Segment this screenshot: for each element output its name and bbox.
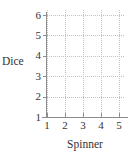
y-tick-label-slot: 1 xyxy=(24,112,41,123)
gridline-vertical xyxy=(83,10,84,117)
y-axis-tick xyxy=(43,15,47,16)
y-tick-label: 4 xyxy=(29,50,41,61)
gridline-horizontal xyxy=(47,15,124,16)
y-tick-label: 5 xyxy=(29,30,41,41)
y-tick-label: 3 xyxy=(29,71,41,82)
y-axis-tick xyxy=(43,56,47,57)
y-axis-tick xyxy=(43,97,47,98)
y-axis-tick xyxy=(43,76,47,77)
gridline-vertical xyxy=(119,10,120,117)
gridline-horizontal xyxy=(47,76,124,77)
x-axis-tick xyxy=(101,113,102,117)
x-tick-label: 1 xyxy=(40,120,54,131)
y-axis-tick xyxy=(43,35,47,36)
gridline-vertical xyxy=(101,10,102,117)
x-axis-tick xyxy=(65,113,66,117)
gridline-horizontal xyxy=(47,35,124,36)
x-axis-title: Spinner xyxy=(46,138,124,151)
x-axis-line xyxy=(42,117,128,118)
x-axis-tick xyxy=(47,113,48,117)
x-tick-label: 3 xyxy=(76,120,90,131)
gridline-vertical xyxy=(47,10,48,117)
y-tick-label: 6 xyxy=(29,10,41,21)
x-axis-tick xyxy=(119,113,120,117)
x-tick-label: 4 xyxy=(94,120,108,131)
chart-screenshot: Dice 6 5 4 3 2 1 xyxy=(0,0,134,156)
x-tick-label: 5 xyxy=(112,120,126,131)
y-tick-label-slot: 4 xyxy=(24,50,41,61)
y-tick-label: 2 xyxy=(29,91,41,102)
y-tick-label-slot: 2 xyxy=(24,91,41,102)
gridline-horizontal xyxy=(47,56,124,57)
gridline-vertical xyxy=(65,10,66,117)
plot-area xyxy=(47,15,119,117)
gridline-horizontal xyxy=(47,97,124,98)
y-tick-label-slot: 6 xyxy=(24,10,41,21)
y-tick-label-slot: 5 xyxy=(24,30,41,41)
x-tick-label: 2 xyxy=(58,120,72,131)
y-axis-line xyxy=(46,12,47,118)
x-axis-tick xyxy=(83,113,84,117)
y-tick-label-slot: 3 xyxy=(24,71,41,82)
